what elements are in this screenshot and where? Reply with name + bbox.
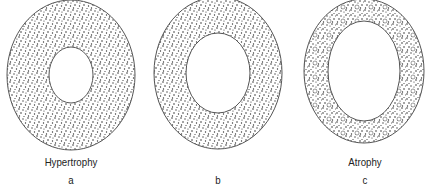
ring-a <box>7 0 135 150</box>
lumen-a <box>49 47 93 103</box>
panel-a-title: Hypertrophy <box>36 156 106 168</box>
lumen-b <box>186 33 250 113</box>
panel-a-letter: a <box>62 174 80 186</box>
lumen-c <box>328 21 400 121</box>
panel-b-letter: b <box>209 174 227 186</box>
panel-c-letter: c <box>356 174 374 186</box>
ring-b <box>154 0 282 149</box>
panel-c-title: Atrophy <box>330 156 400 168</box>
ring-c <box>304 0 424 143</box>
